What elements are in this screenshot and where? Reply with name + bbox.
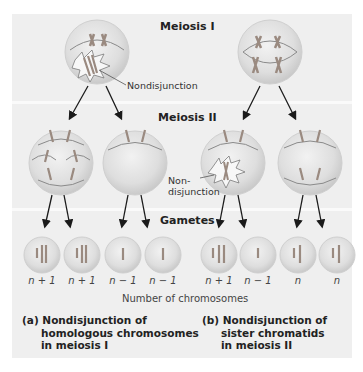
ploidy-label: n + 1 xyxy=(67,275,97,286)
caption-a-line2: homologous chromosomes xyxy=(22,327,199,340)
caption-b-line3: in meiosis II xyxy=(202,339,327,352)
caption-b-prefix: (b) xyxy=(202,314,219,326)
annotation-nondisjunction-b-line2: disjunction xyxy=(168,186,220,197)
meiosis2-cell-4 xyxy=(278,130,342,195)
meiosis2-cell-2 xyxy=(103,130,167,195)
meiosis1-cell-a xyxy=(65,20,129,84)
caption-a-prefix: (a) xyxy=(22,314,39,326)
meiosis2-cell-1 xyxy=(29,130,93,195)
meiosis1-cell-b xyxy=(238,20,302,84)
annotation-nondisjunction-b-line1: Non- xyxy=(168,175,190,186)
caption-a: (a) Nondisjunction of homologous chromos… xyxy=(22,314,199,352)
caption-b-line1: Nondisjunction of xyxy=(223,314,327,326)
ploidy-label: n + 1 xyxy=(204,275,234,286)
ploidy-label: n − 1 xyxy=(108,275,138,286)
axis-caption: Number of chromosomes xyxy=(122,293,248,304)
stage-label-meiosis1: Meiosis I xyxy=(160,20,215,33)
caption-a-line3: in meiosis I xyxy=(22,339,199,352)
caption-a-line1: Nondisjunction of xyxy=(42,314,146,326)
caption-b: (b) Nondisjunction of sister chromatids … xyxy=(202,314,327,352)
ploidy-label: n + 1 xyxy=(27,275,57,286)
stage-label-gametes: Gametes xyxy=(160,214,215,227)
ploidy-label: n xyxy=(283,275,313,286)
ploidy-label: n − 1 xyxy=(148,275,178,286)
gametes-a xyxy=(24,237,181,273)
caption-b-line2: sister chromatids xyxy=(202,327,327,340)
gametes-b xyxy=(201,237,355,273)
ploidy-label: n − 1 xyxy=(243,275,273,286)
stage-label-meiosis2: Meiosis II xyxy=(158,111,217,124)
annotation-nondisjunction-a: Nondisjunction xyxy=(127,80,198,91)
ploidy-label: n xyxy=(322,275,352,286)
